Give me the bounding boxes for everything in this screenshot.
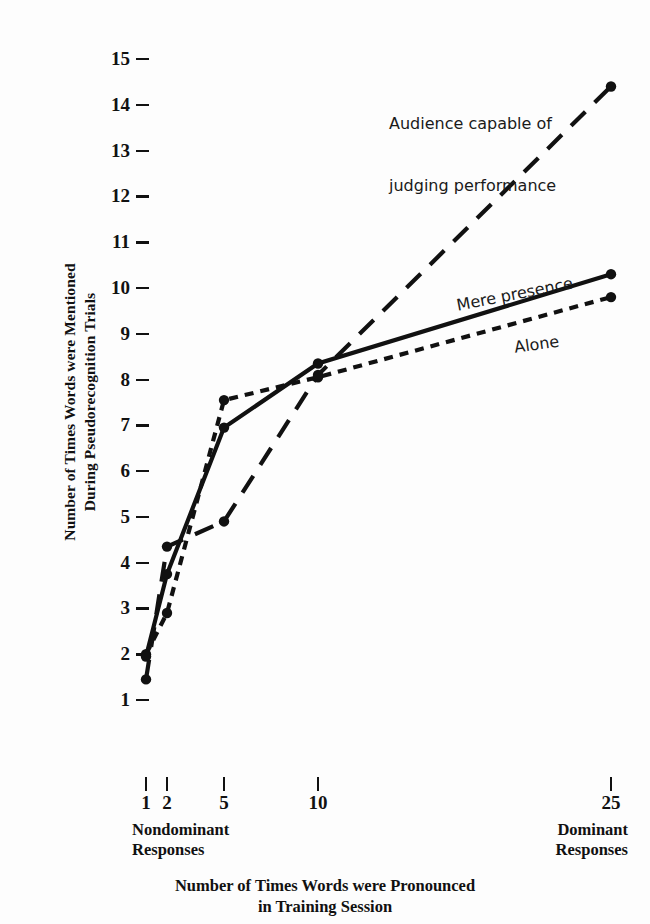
data-point-alone-5 (219, 395, 229, 405)
data-point-mere-presence-10 (313, 358, 323, 368)
right-group-line-2: Responses (556, 840, 628, 860)
x-axis-tick-label-10: 10 (309, 793, 328, 812)
x-axis-title-line-2: in Training Session (0, 897, 650, 918)
data-point-audience-capable-of-judging-performance-25 (606, 81, 616, 91)
x-axis-right-group-label: Dominant Responses (556, 820, 628, 860)
x-axis-tick-mark-5 (223, 777, 225, 791)
x-axis-title-line-1: Number of Times Words were Pronounced (0, 876, 650, 897)
data-point-audience-capable-of-judging-performance-5 (219, 516, 229, 526)
left-group-line-2: Responses (132, 840, 229, 860)
annotation-audience-line-2: judging performance (389, 176, 556, 197)
left-group-line-1: Nondominant (132, 820, 229, 840)
x-axis-tick-label-2: 2 (162, 793, 172, 812)
data-point-audience-capable-of-judging-performance-1 (141, 674, 151, 684)
series-line-mere-presence (146, 274, 611, 656)
x-axis-tick-mark-10 (317, 777, 319, 791)
x-axis-tick-label-25: 25 (602, 793, 621, 812)
x-axis-tick-mark-1 (145, 777, 147, 791)
data-point-mere-presence-5 (219, 422, 229, 432)
x-axis-tick-mark-25 (610, 777, 612, 791)
data-point-audience-capable-of-judging-performance-2 (162, 541, 172, 551)
annotation-audience: Audience capable of judging performance (389, 72, 556, 238)
x-axis-tick-label-5: 5 (219, 793, 229, 812)
data-point-alone-25 (606, 292, 616, 302)
right-group-line-1: Dominant (556, 820, 628, 840)
chart-figure: Number of Times Words were Mentioned Dur… (0, 0, 650, 924)
x-axis-title: Number of Times Words were Pronounced in… (0, 876, 650, 917)
x-axis-left-group-label: Nondominant Responses (132, 820, 229, 860)
x-axis-tick-mark-2 (166, 777, 168, 791)
data-point-mere-presence-2 (162, 569, 172, 579)
data-point-audience-capable-of-judging-performance-10 (313, 370, 323, 380)
data-point-alone-2 (162, 608, 172, 618)
data-point-mere-presence-1 (141, 651, 151, 661)
annotation-audience-line-1: Audience capable of (389, 114, 556, 135)
data-point-mere-presence-25 (606, 269, 616, 279)
x-axis-tick-label-1: 1 (141, 793, 151, 812)
